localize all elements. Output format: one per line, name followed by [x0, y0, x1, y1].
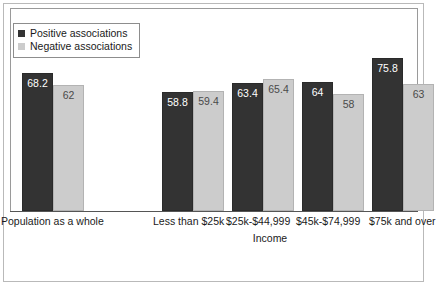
bar-value-negative-25k-44999: 65.4: [264, 83, 293, 95]
legend-label-negative: Negative associations: [30, 40, 132, 53]
legend-swatch-negative: [18, 43, 25, 50]
bar-value-negative-45k-74999: 58: [334, 98, 363, 110]
x-tick-label-45k-74999: $45k-$74,999: [296, 214, 360, 228]
bar-value-positive-45k-74999: 64: [303, 86, 332, 98]
chart-legend: Positive associations Negative associati…: [13, 23, 140, 58]
bar-positive-population-as-a-whole[interactable]: 68.2: [22, 73, 53, 211]
legend-swatch-positive: [18, 30, 25, 37]
x-axis-line: [10, 211, 418, 212]
bar-negative-population-as-a-whole[interactable]: 62: [53, 85, 84, 211]
x-tick-label-75k-and-over: $75k and over: [369, 214, 436, 228]
bar-negative-25k-44999[interactable]: 65.4: [263, 79, 294, 211]
bar-value-negative-75k-and-over: 63: [404, 88, 433, 100]
x-axis-title: Income: [0, 232, 430, 244]
bar-value-positive-population-as-a-whole: 68.2: [23, 77, 52, 89]
x-tick-label-25k-44999: $25k-$44,999: [226, 214, 290, 228]
bar-negative-less-than-25k[interactable]: 59.4: [193, 91, 224, 211]
x-tick-label-population-as-a-whole: Population as a whole: [1, 214, 104, 228]
bar-positive-25k-44999[interactable]: 63.4: [232, 83, 263, 211]
bar-value-positive-75k-and-over: 75.8: [373, 62, 402, 74]
bar-value-negative-population-as-a-whole: 62: [54, 89, 83, 101]
bar-positive-less-than-25k[interactable]: 58.8: [162, 92, 193, 211]
x-axis-tick-labels: Population as a whole Less than $25k $25…: [10, 214, 422, 230]
x-axis-title-text: Income: [253, 232, 287, 244]
legend-label-positive: Positive associations: [30, 27, 127, 40]
bar-group-less-than-25k: 58.8 59.4: [162, 8, 224, 211]
bar-negative-45k-74999[interactable]: 58: [333, 94, 364, 211]
bar-group-75k-and-over: 75.8 63: [372, 8, 434, 211]
bar-positive-45k-74999[interactable]: 64: [302, 82, 333, 211]
bar-value-positive-less-than-25k: 58.8: [163, 96, 192, 108]
bar-value-positive-25k-44999: 63.4: [233, 87, 262, 99]
x-tick-label-less-than-25k: Less than $25k: [153, 214, 224, 228]
bar-group-25k-44999: 63.4 65.4: [232, 8, 294, 211]
bar-group-45k-74999: 64 58: [302, 8, 364, 211]
legend-item-positive[interactable]: Positive associations: [18, 27, 132, 40]
legend-item-negative[interactable]: Negative associations: [18, 40, 132, 53]
bar-negative-75k-and-over[interactable]: 63: [403, 84, 434, 211]
bar-value-negative-less-than-25k: 59.4: [194, 95, 223, 107]
bar-positive-75k-and-over[interactable]: 75.8: [372, 58, 403, 211]
